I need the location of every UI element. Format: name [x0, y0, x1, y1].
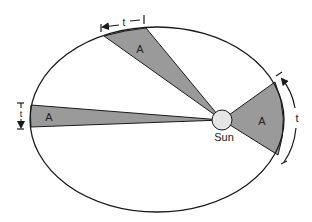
arrow-up-icon [282, 79, 295, 108]
kepler-orbit-diagram: A A A Sun t t t [0, 0, 312, 222]
time-label-left: t [20, 109, 23, 119]
wedge-right-area-label: A [258, 115, 266, 127]
time-indicator-left: t [17, 103, 24, 129]
time-label-top: t [123, 17, 126, 28]
sun-icon [212, 110, 232, 130]
sun-label: Sun [214, 131, 234, 143]
arrow-left-icon [103, 25, 119, 27]
wedge-top-area-label: A [136, 43, 144, 55]
wedge-left-area-label: A [45, 111, 53, 123]
wedge-top: A [104, 28, 222, 120]
sun: Sun [212, 110, 234, 143]
time-label-right: t [295, 112, 298, 124]
wedge-left: A [31, 105, 223, 127]
